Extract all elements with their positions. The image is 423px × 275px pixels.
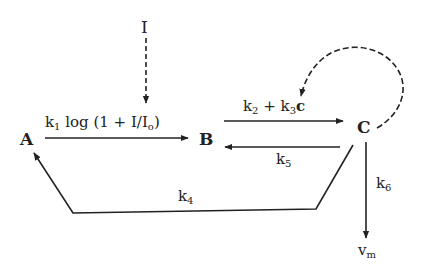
node-b: B [199,131,213,148]
rate-label-c-to-vm: k6 [376,176,391,191]
output-vm-label: vm [358,243,376,258]
node-c: C [357,119,371,136]
node-a: A [20,131,33,148]
rate-label-c-to-a: k4 [178,189,193,204]
input-i-label: I [141,19,148,36]
rate-label-c-to-b: k5 [276,152,291,167]
rate-label-a-to-b: k1 log (1 + I/Io) [45,115,160,130]
rate-label-b-to-c: k2 + k3c [243,99,305,114]
arrow-c-to-a [34,145,353,213]
feedback-dashed-loop [301,47,403,128]
